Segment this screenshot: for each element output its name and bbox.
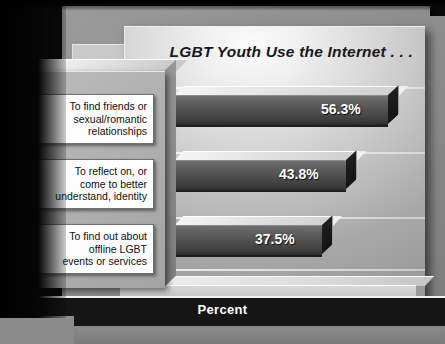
category-label-1-line-2: sexual/romantic [27, 113, 147, 126]
category-label-3-line-3: events or services [27, 255, 147, 268]
category-label-2-line-3: understand, identity [27, 190, 147, 203]
category-label-1-line-1: To find friends or [27, 100, 147, 113]
category-label-3-line-2: offline LGBT [27, 243, 147, 256]
category-label-1: To find friends or sexual/romantic relat… [22, 94, 154, 144]
bar-row-2: 43.8% [165, 151, 355, 181]
category-label-2-line-1: To reflect on, or [27, 165, 147, 178]
category-label-3-line-1: To find out about [27, 230, 147, 243]
bar-row-1: 56.3% [165, 86, 397, 116]
category-panel-side-face [164, 60, 176, 287]
bar-value-label-2: 43.8% [279, 166, 319, 182]
category-label-panel: To find friends or sexual/romantic relat… [14, 59, 174, 287]
category-label-2: To reflect on, or come to better underst… [22, 159, 154, 209]
category-label-1-line-3: relationships [27, 125, 147, 138]
bar-front-face-3 [165, 225, 322, 257]
background-bottom-step [0, 316, 74, 344]
bar-row-3: 37.5% [165, 216, 331, 246]
bar-value-label-3: 37.5% [255, 231, 295, 247]
bar-value-label-1: 56.3% [321, 101, 361, 117]
category-label-2-line-2: come to better [27, 178, 147, 191]
background-bottom-shade [74, 326, 445, 344]
category-label-3: To find out about offline LGBT events or… [22, 224, 154, 274]
x-axis-label: Percent [0, 302, 445, 317]
chart-screenshot: LGBT Youth Use the Internet . . . 56.3% … [0, 0, 445, 344]
category-panel-front-face: To find friends or sexual/romantic relat… [14, 71, 165, 288]
